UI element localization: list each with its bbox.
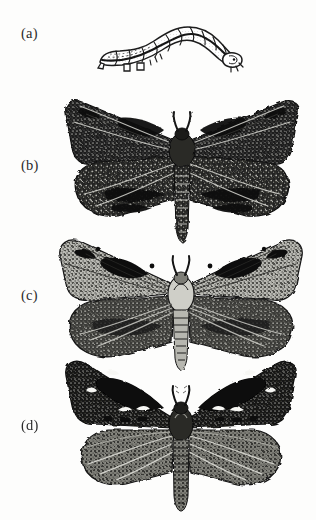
moth-dark-spotted-illustration: [62, 354, 300, 514]
caterpillar-illustration: [92, 10, 244, 74]
figure-plate: (a): [0, 0, 316, 520]
panel-label-a: (a): [21, 25, 38, 42]
panel-label-b: (b): [21, 157, 39, 174]
panel-d: (d): [0, 352, 316, 520]
panel-a: (a): [0, 0, 316, 90]
panel-label-c: (c): [21, 287, 38, 304]
panel-label-d: (d): [21, 417, 39, 434]
